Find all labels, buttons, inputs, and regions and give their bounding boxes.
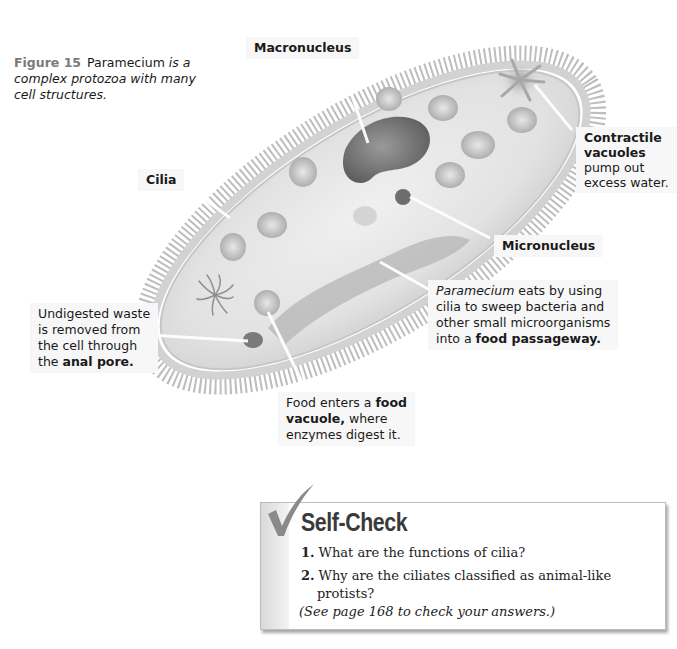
label-food-passageway: Paramecium eats by using cilia to sweep … xyxy=(428,280,618,350)
label-cilia: Cilia xyxy=(138,169,184,191)
caption-subject: Paramecium xyxy=(87,55,165,70)
label-macronucleus: Macronucleus xyxy=(246,37,359,59)
answers-note: (See page 168 to check your answers.) xyxy=(299,604,555,619)
question-1: 1.What are the functions of cilia? xyxy=(301,544,525,562)
self-check-title: Self-Check xyxy=(301,507,407,538)
label-anal-pore: Undigested waste is removed from the cel… xyxy=(30,303,158,373)
checkmark-icon xyxy=(266,482,316,538)
figure-number: Figure 15 xyxy=(14,55,81,70)
question-2: 2.Why are the ciliates classified as ani… xyxy=(301,567,611,603)
label-micronucleus: Micronucleus xyxy=(494,235,603,257)
label-food-vacuole: Food enters a food vacuole, where enzyme… xyxy=(278,392,415,446)
figure-caption: Figure 15Paramecium is a complex protozo… xyxy=(14,55,214,103)
label-contractile-vacuoles: Contractile vacuoles pump out excess wat… xyxy=(576,127,677,193)
self-check-box: Self-Check 1.What are the functions of c… xyxy=(260,502,666,630)
micronucleus xyxy=(395,189,411,205)
